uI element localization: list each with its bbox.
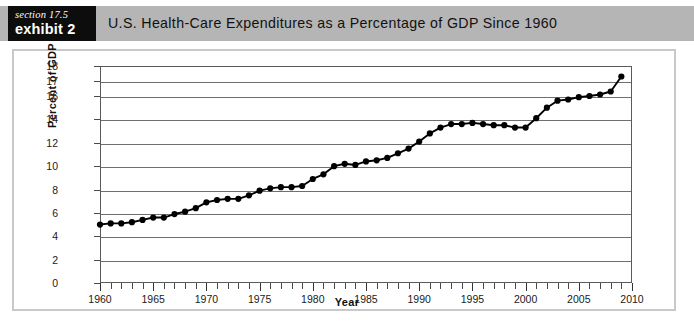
- gridline-y-2: [101, 261, 631, 262]
- x-tick-label-2000: 2000: [504, 293, 548, 305]
- gridline-y-17: [101, 82, 631, 83]
- y-tick-label-17: 17: [18, 75, 58, 87]
- x-tick-minor-1989: [409, 283, 410, 289]
- x-tick-minor-1991: [430, 283, 431, 289]
- x-tick-minor-1999: [515, 283, 516, 289]
- y-tick-mark-2: [94, 260, 100, 261]
- exhibit-title: U.S. Health-Care Expenditures as a Perce…: [108, 6, 557, 41]
- gridline-y-16: [101, 97, 631, 98]
- x-tick-minor-1961: [111, 283, 112, 289]
- x-tick-minor-1992: [440, 283, 441, 289]
- plot-area: [100, 66, 632, 283]
- gridline-y-6: [101, 214, 631, 215]
- x-tick-minor-1984: [355, 283, 356, 289]
- x-tick-major-1980: [313, 283, 314, 291]
- y-tick-mark-6: [94, 213, 100, 214]
- x-tick-major-2005: [579, 283, 580, 291]
- x-tick-label-1990: 1990: [397, 293, 441, 305]
- gridline-y-4: [101, 237, 631, 238]
- x-tick-minor-1994: [462, 283, 463, 289]
- y-tick-mark-4: [94, 236, 100, 237]
- x-tick-major-1995: [472, 283, 473, 291]
- y-tick-mark-14: [94, 119, 100, 120]
- x-tick-minor-1974: [249, 283, 250, 289]
- x-tick-label-1960: 1960: [78, 293, 122, 305]
- x-tick-label-1985: 1985: [344, 293, 388, 305]
- x-tick-minor-1981: [323, 283, 324, 289]
- x-tick-label-2010: 2010: [610, 293, 654, 305]
- x-tick-minor-2009: [621, 283, 622, 289]
- y-tick-label-14: 14: [18, 113, 58, 125]
- y-tick-mark-8: [94, 190, 100, 191]
- x-tick-major-2010: [632, 283, 633, 291]
- y-tick-mark-10: [94, 166, 100, 167]
- x-tick-minor-1972: [228, 283, 229, 289]
- x-tick-minor-1982: [334, 283, 335, 289]
- x-tick-minor-1983: [345, 283, 346, 289]
- x-tick-minor-1963: [132, 283, 133, 289]
- x-tick-minor-2004: [568, 283, 569, 289]
- x-tick-minor-2007: [600, 283, 601, 289]
- x-tick-major-2000: [526, 283, 527, 291]
- x-tick-minor-1967: [174, 283, 175, 289]
- exhibit-badge: section 17.5 exhibit 2: [8, 6, 96, 41]
- x-tick-minor-1998: [504, 283, 505, 289]
- x-tick-minor-1997: [494, 283, 495, 289]
- x-tick-major-1990: [419, 283, 420, 291]
- x-tick-label-1975: 1975: [238, 293, 282, 305]
- x-tick-minor-1973: [238, 283, 239, 289]
- x-tick-label-1980: 1980: [291, 293, 335, 305]
- x-tick-minor-1962: [121, 283, 122, 289]
- y-tick-label-8: 8: [18, 184, 58, 196]
- x-tick-label-1965: 1965: [131, 293, 175, 305]
- x-tick-major-1965: [153, 283, 154, 291]
- exhibit-section-label: section 17.5: [15, 9, 96, 21]
- x-tick-minor-2003: [558, 283, 559, 289]
- y-tick-label-16: 16: [18, 90, 58, 102]
- y-tick-label-2: 2: [18, 254, 58, 266]
- x-tick-label-2005: 2005: [557, 293, 601, 305]
- y-tick-mark-16: [94, 96, 100, 97]
- x-tick-minor-1977: [281, 283, 282, 289]
- x-tick-major-1970: [206, 283, 207, 291]
- x-tick-minor-2008: [611, 283, 612, 289]
- x-tick-minor-1978: [292, 283, 293, 289]
- x-tick-label-1995: 1995: [450, 293, 494, 305]
- y-tick-label-6: 6: [18, 207, 58, 219]
- exhibit-number-label: exhibit 2: [15, 21, 96, 38]
- gridline-y-14: [101, 120, 631, 121]
- gridline-y-8: [101, 191, 631, 192]
- y-tick-label-0: 0: [18, 277, 58, 289]
- x-tick-minor-1969: [196, 283, 197, 289]
- y-tick-mark-18: [94, 66, 100, 67]
- gridline-y-10: [101, 167, 631, 168]
- x-tick-minor-1996: [483, 283, 484, 289]
- x-tick-minor-1988: [398, 283, 399, 289]
- y-tick-label-4: 4: [18, 230, 58, 242]
- x-tick-major-1985: [366, 283, 367, 291]
- x-tick-major-1960: [100, 283, 101, 291]
- x-tick-major-1975: [260, 283, 261, 291]
- y-tick-label-10: 10: [18, 160, 58, 172]
- x-tick-minor-2002: [547, 283, 548, 289]
- x-tick-minor-1971: [217, 283, 218, 289]
- x-tick-minor-2001: [536, 283, 537, 289]
- y-tick-mark-17: [94, 81, 100, 82]
- x-tick-label-1970: 1970: [184, 293, 228, 305]
- x-tick-minor-1993: [451, 283, 452, 289]
- x-tick-minor-1986: [377, 283, 378, 289]
- x-tick-minor-2006: [589, 283, 590, 289]
- y-tick-mark-12: [94, 143, 100, 144]
- x-tick-minor-1964: [143, 283, 144, 289]
- x-tick-minor-1968: [185, 283, 186, 289]
- y-tick-label-18: 18: [18, 60, 58, 72]
- x-tick-minor-1979: [302, 283, 303, 289]
- gridline-y-12: [101, 144, 631, 145]
- y-tick-label-12: 12: [18, 137, 58, 149]
- x-tick-minor-1976: [270, 283, 271, 289]
- x-tick-minor-1966: [164, 283, 165, 289]
- x-tick-minor-1987: [387, 283, 388, 289]
